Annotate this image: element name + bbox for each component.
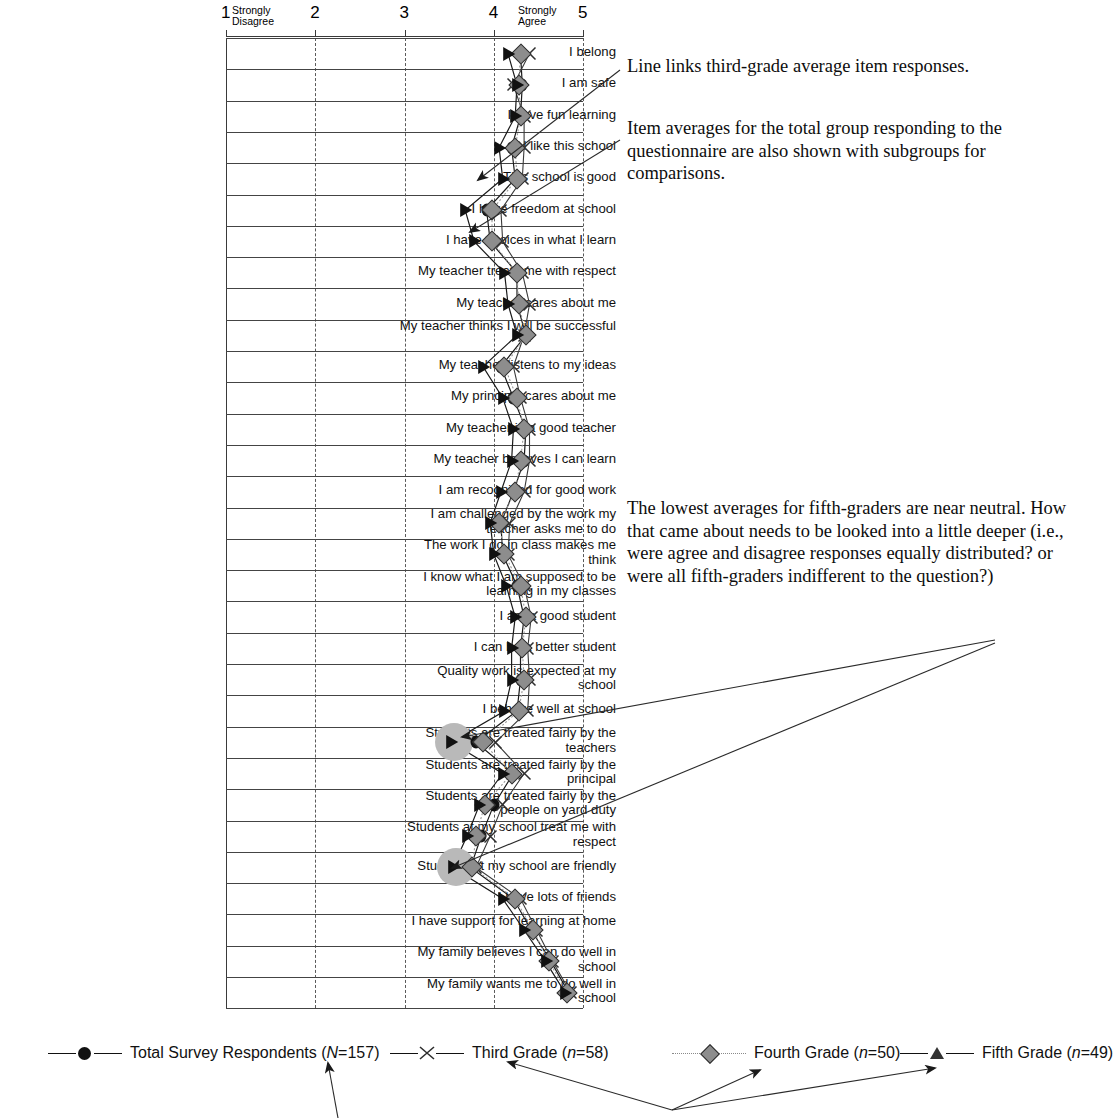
- legend-marker-filled-circle: [76, 1045, 94, 1061]
- legend-item-1[interactable]: Third Grade (n=58): [390, 1034, 609, 1072]
- legend-rule-right: [94, 1053, 122, 1054]
- legend-rule-left: [390, 1053, 418, 1054]
- legend-label: Total Survey Respondents (N=157): [130, 1044, 379, 1062]
- legend-marker-x-cross: [418, 1045, 436, 1061]
- legend-rule-right: [718, 1053, 746, 1054]
- legend: Total Survey Respondents (N=157)Third Gr…: [0, 1034, 1082, 1080]
- legend-label: Fifth Grade (n=49): [982, 1044, 1113, 1062]
- legend-rule-left: [900, 1053, 928, 1054]
- legend-rule-left: [48, 1053, 76, 1054]
- legend-rule-left: [672, 1053, 700, 1054]
- legend-item-0[interactable]: Total Survey Respondents (N=157): [48, 1034, 379, 1072]
- legend-marker-filled-triangle: [928, 1045, 946, 1061]
- arrow-to-item-averages: [470, 140, 620, 232]
- arrow-to-third-grade-line: [478, 70, 620, 180]
- legend-label: Third Grade (n=58): [472, 1044, 609, 1062]
- legend-item-3[interactable]: Fifth Grade (n=49): [900, 1034, 1113, 1072]
- legend-marker-gray-diamond: [700, 1045, 718, 1061]
- arrow-to-friendly-point: [452, 643, 995, 868]
- arrow-to-teachers-point: [462, 640, 995, 737]
- legend-item-2[interactable]: Fourth Grade (n=50): [672, 1034, 900, 1072]
- legend-label: Fourth Grade (n=50): [754, 1044, 900, 1062]
- legend-rule-right: [436, 1053, 464, 1054]
- legend-rule-right: [946, 1053, 974, 1054]
